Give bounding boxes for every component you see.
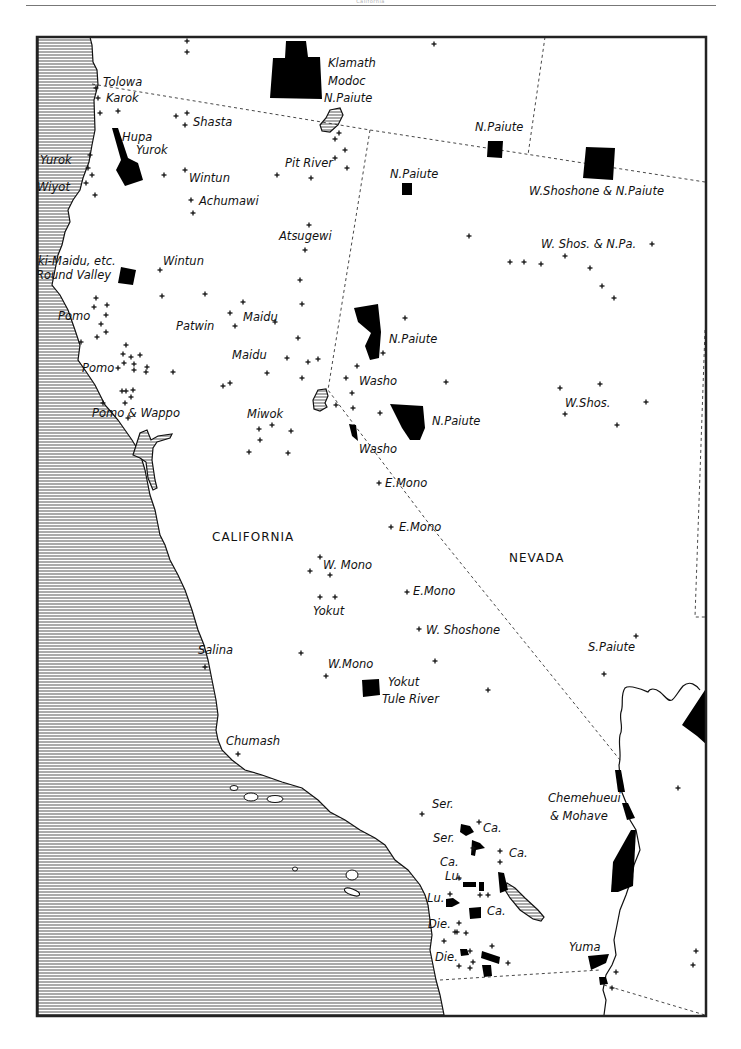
reservation-klamath-modoc-npaiute [270,41,322,99]
tribe-label: S.Paiute [588,640,635,654]
tribe-label: W. Mono [323,558,372,572]
reservation-ca-3 [469,907,481,919]
settlement-plus-icon [612,296,617,301]
reservation-yuma [588,954,609,970]
settlement-plus-icon [191,211,196,216]
reservation-npaiute-walker [390,404,425,440]
settlement-plus-icon [316,357,321,362]
tribe-label: Lu. [427,891,444,905]
settlement-plus-icon [506,961,511,966]
tribe-label: Round Valley [36,268,111,282]
tribe-label: Die. [428,917,451,931]
settlement-plus-icon [650,242,655,247]
tribe-label: Patwin [176,319,214,333]
settlement-plus-icon [300,376,305,381]
channel-island [267,796,283,803]
settlement-plus-icon [98,111,103,116]
tribe-label: Pomo [58,309,90,323]
settlement-plus-icon [615,423,620,428]
settlement-plus-icon [123,401,128,406]
tribe-label: N.Paiute [432,414,480,428]
tribe-label: E.Mono [413,584,455,598]
settlement-plus-icon [444,380,449,385]
settlement-plus-icon [334,403,339,408]
settlement-plus-icon [448,892,453,897]
reservation-npaiute-oregon-line [487,141,503,158]
tribe-label: & Mohave [550,809,608,823]
settlement-plus-icon [420,812,425,817]
settlement-plus-icon [84,181,89,186]
tribe-label: Atsugewi [278,229,332,243]
settlement-plus-icon [203,292,208,297]
salton-sea [505,883,544,921]
tribe-label: Chemehueui [548,791,622,805]
settlement-plus-icon [307,223,312,228]
settlement-plus-icon [121,352,126,357]
reservation-mohave-north [615,770,625,792]
tribe-label: Die. [435,950,458,964]
settlement-plus-icon [160,294,165,299]
settlement-plus-icon [233,324,238,329]
settlement-plus-icon [300,302,305,307]
settlement-plus-icon [306,360,311,365]
tribal-reservations-map: TolowaKarokShastaHupaYurokYurokWiyotWint… [0,0,741,1049]
settlement-plus-icon [158,268,163,273]
settlement-plus-icon [433,659,438,664]
reservation-die-2 [481,951,500,964]
tribe-label: Shasta [193,115,232,129]
settlement-plus-icon [610,986,615,991]
tribe-label: Lu. [445,869,462,883]
tribe-label: Wintun [163,254,204,268]
settlement-plus-icon [285,356,290,361]
settlement-plus-icon [221,384,226,389]
reservation-round-valley [118,267,136,285]
settlement-plus-icon [614,970,619,975]
settlement-plus-icon [442,939,447,944]
settlement-plus-icon [351,406,356,411]
settlement-plus-icon [90,173,95,178]
settlement-plus-icon [105,303,110,308]
reservation-ca-torres [498,872,508,893]
tribe-label: N.Paiute [475,120,523,134]
settlement-plus-icon [289,429,294,434]
settlement-plus-icon [478,893,483,898]
settlement-plus-icon [328,573,333,578]
settlement-plus-icon [343,148,348,153]
settlement-plus-icon [467,234,472,239]
reservation-npaiute-nv-north [402,183,412,195]
settlement-plus-icon [602,672,607,677]
tribe-label: E.Mono [399,520,441,534]
settlement-plus-icon [120,389,125,394]
tribe-label: Modoc [328,74,366,88]
tribe-label: Miwok [247,407,285,421]
tribe-label: W. Shoshone [426,623,500,637]
settlement-plus-icon [558,386,563,391]
channel-island [346,870,358,880]
settlement-plus-icon [162,173,167,178]
settlement-plus-icon [296,336,301,341]
settlement-plus-icon [183,168,188,173]
settlement-plus-icon [344,376,349,381]
settlement-plus-icon [457,964,462,969]
tribe-label: Achumawi [198,194,259,208]
settlement-plus-icon [247,450,252,455]
tule-lake [320,108,343,132]
settlement-plus-icon [99,322,104,327]
settlement-plus-icon [124,343,129,348]
reservation-lu-1 [463,882,476,887]
settlement-plus-icon [257,427,262,432]
settlement-plus-icon [355,364,360,369]
tribe-label: Salina [198,643,233,657]
settlement-plus-icon [270,423,275,428]
tribe-label: Pit River [285,156,334,170]
tribe-label: Yuma [569,940,601,954]
settlement-plus-icon [588,266,593,271]
reservation-die-3 [482,965,492,977]
colorado-river [603,683,700,1015]
settlement-plus-icon [333,137,338,142]
reservation-yuma-south [599,977,608,985]
reservation-tule-river [362,679,380,697]
settlement-plus-icon [486,688,491,693]
settlement-plus-icon [600,284,605,289]
settlement-plus-icon [185,111,190,116]
